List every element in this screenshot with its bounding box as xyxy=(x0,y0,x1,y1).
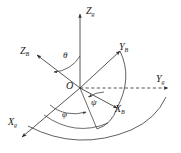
theta-angle-label: θ xyxy=(63,51,67,60)
phi-arc xyxy=(50,105,86,114)
phi-angle-label: φ xyxy=(62,110,67,119)
axis-label-y-body: YB xyxy=(119,42,128,53)
origin-label: O xyxy=(66,81,73,91)
diagram-canvas xyxy=(0,0,181,153)
psi-arc-tick xyxy=(88,96,89,97)
axis-label-x-ground: Xg xyxy=(8,117,17,128)
axis-label-z-body: ZB xyxy=(20,46,29,57)
euler-angle-diagram: Zg Yg Xg ZB YB XB O θ ψ φ xyxy=(0,0,181,153)
axis-label-z-ground: Zg xyxy=(86,6,95,17)
psi-angle-label: ψ xyxy=(91,98,97,107)
axis-line-x-body xyxy=(80,88,117,108)
axis-label-x-body: XB xyxy=(115,104,125,115)
body-plane-arc xyxy=(117,51,126,108)
axis-line-y-body xyxy=(80,51,120,88)
axis-line-x-ground xyxy=(22,88,80,137)
inner-ground-arc xyxy=(44,115,108,128)
axis-label-y-ground: Yg xyxy=(156,74,165,85)
ground-plane-arc xyxy=(28,97,166,140)
